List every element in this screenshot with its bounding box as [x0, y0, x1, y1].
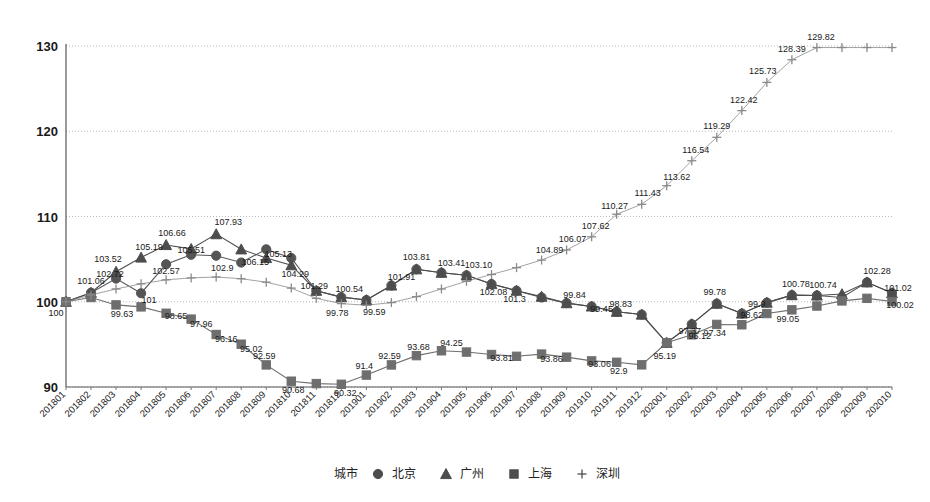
legend-marker-circle[interactable]	[373, 469, 382, 478]
svg-text:202002: 202002	[663, 389, 693, 419]
data-point-marker	[136, 252, 147, 262]
svg-text:105.13: 105.13	[264, 249, 292, 259]
svg-text:202003: 202003	[688, 389, 718, 419]
data-point-marker	[337, 380, 345, 388]
data-point-marker	[512, 263, 521, 272]
legend-marker-plus[interactable]	[578, 470, 587, 479]
svg-text:201910: 201910	[563, 389, 593, 419]
svg-text:90.32: 90.32	[334, 388, 357, 398]
data-point-labels: 100101.06103.52102.72101105.19106.66105.…	[48, 32, 913, 399]
svg-text:201803: 201803	[87, 389, 117, 419]
data-point-marker	[187, 273, 196, 282]
svg-text:129.82: 129.82	[807, 32, 835, 42]
svg-text:92.9: 92.9	[610, 366, 628, 376]
svg-text:201904: 201904	[413, 389, 443, 419]
svg-text:201804: 201804	[112, 389, 142, 419]
svg-text:101: 101	[142, 295, 157, 305]
svg-text:100: 100	[48, 308, 63, 318]
data-point-marker	[412, 351, 420, 359]
data-point-marker	[162, 275, 171, 284]
svg-text:201806: 201806	[162, 389, 192, 419]
svg-text:101.3: 101.3	[503, 294, 526, 304]
svg-text:102.9: 102.9	[211, 263, 234, 273]
svg-text:201912: 201912	[613, 389, 643, 419]
legend-label[interactable]: 北京	[392, 467, 416, 481]
svg-text:93.86: 93.86	[540, 354, 563, 364]
legend-label[interactable]: 广州	[460, 467, 484, 481]
svg-text:99.59: 99.59	[363, 307, 386, 317]
svg-text:201802: 201802	[62, 389, 92, 419]
chart-legend: 城市北京广州上海深圳	[334, 466, 620, 481]
svg-text:100.02: 100.02	[886, 300, 914, 310]
svg-text:101.29: 101.29	[301, 281, 329, 291]
svg-text:97.96: 97.96	[190, 319, 213, 329]
svg-text:202010: 202010	[863, 389, 893, 419]
data-point-marker	[237, 274, 246, 283]
svg-text:93.81: 93.81	[490, 353, 513, 363]
svg-text:106.66: 106.66	[158, 228, 186, 238]
svg-text:103.41: 103.41	[438, 258, 466, 268]
svg-text:94.25: 94.25	[440, 338, 463, 348]
svg-text:125.73: 125.73	[749, 66, 777, 76]
data-point-marker	[813, 302, 821, 310]
svg-text:104.89: 104.89	[536, 245, 564, 255]
data-point-marker	[612, 358, 620, 366]
svg-text:96.16: 96.16	[215, 334, 238, 344]
svg-text:201809: 201809	[237, 389, 267, 419]
data-point-marker	[888, 43, 897, 52]
data-point-marker	[863, 294, 871, 302]
svg-text:102.57: 102.57	[152, 266, 180, 276]
svg-text:122.42: 122.42	[730, 95, 758, 105]
svg-text:95.19: 95.19	[653, 351, 676, 361]
svg-text:103.10: 103.10	[465, 260, 493, 270]
svg-text:201911: 201911	[588, 389, 618, 419]
svg-text:202005: 202005	[738, 389, 768, 419]
svg-text:201909: 201909	[538, 389, 568, 419]
svg-text:111.43: 111.43	[635, 188, 661, 198]
svg-text:119.29: 119.29	[703, 121, 730, 131]
svg-text:201808: 201808	[212, 389, 242, 419]
svg-text:201903: 201903	[388, 389, 418, 419]
y-axis-ticks: 90100110120130	[36, 39, 58, 395]
data-point-marker	[663, 339, 671, 347]
data-point-marker	[738, 321, 746, 329]
svg-text:100.54: 100.54	[336, 284, 364, 294]
svg-text:201902: 201902	[363, 389, 393, 419]
data-point-marker	[112, 284, 121, 293]
svg-text:106.07: 106.07	[559, 234, 587, 244]
svg-text:105.51: 105.51	[177, 245, 205, 255]
legend-marker-square[interactable]	[510, 470, 518, 478]
x-axis-ticks: 2018012018022018032018042018052018062018…	[37, 387, 893, 419]
gridlines	[66, 46, 892, 387]
data-point-marker	[862, 43, 871, 52]
data-point-marker	[312, 379, 320, 387]
svg-text:101.02: 101.02	[884, 283, 912, 293]
data-point-marker	[713, 320, 721, 328]
data-point-marker	[112, 301, 120, 309]
svg-text:101.91: 101.91	[388, 272, 416, 282]
svg-text:201907: 201907	[488, 389, 518, 419]
svg-text:99.78: 99.78	[704, 287, 727, 297]
legend-label[interactable]: 深圳	[596, 467, 620, 481]
legend-label[interactable]: 上海	[528, 466, 552, 481]
series-markers	[61, 43, 898, 388]
svg-text:110: 110	[37, 210, 58, 225]
svg-text:201807: 201807	[187, 389, 217, 419]
data-point-marker	[562, 246, 571, 255]
data-point-marker	[838, 297, 846, 305]
svg-text:98.83: 98.83	[609, 299, 632, 309]
legend-title: 城市	[334, 466, 358, 481]
svg-text:93.68: 93.68	[407, 342, 430, 352]
legend-marker-triangle[interactable]	[441, 469, 452, 479]
data-point-marker	[637, 361, 645, 369]
svg-text:116.54: 116.54	[682, 145, 709, 155]
svg-text:93.06: 93.06	[588, 359, 611, 369]
svg-text:102.72: 102.72	[96, 269, 124, 279]
svg-text:201805: 201805	[137, 389, 167, 419]
svg-text:91.4: 91.4	[356, 361, 374, 371]
data-point-marker	[412, 292, 421, 301]
data-point-marker	[387, 361, 395, 369]
data-point-marker	[462, 348, 470, 356]
data-point-marker	[437, 284, 446, 293]
data-point-marker	[262, 361, 270, 369]
